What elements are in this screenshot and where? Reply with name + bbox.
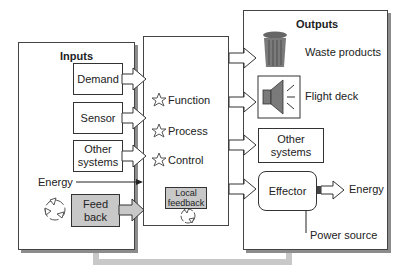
local-feedback-box: Local feedback — [165, 187, 207, 209]
other-systems-output-label: Other systems — [266, 133, 316, 159]
control-label: Control — [168, 154, 203, 166]
recycle-icon-local — [181, 208, 195, 223]
waste-products-label: Waste products — [305, 46, 381, 58]
other-systems-output-box: Other systems — [258, 128, 324, 163]
trash-can-icon — [263, 32, 287, 68]
effector-box: Effector — [258, 171, 317, 211]
flight-deck-label: Flight deck — [305, 90, 358, 102]
energy-output-label: Energy — [349, 183, 384, 195]
process-label: Process — [168, 125, 208, 137]
function-label: Function — [168, 94, 210, 106]
power-source-label: Power source — [310, 229, 377, 241]
recycle-icon-inputs — [45, 198, 65, 220]
local-feedback-label: Local feedback — [166, 188, 206, 208]
effector-label: Effector — [269, 185, 307, 198]
